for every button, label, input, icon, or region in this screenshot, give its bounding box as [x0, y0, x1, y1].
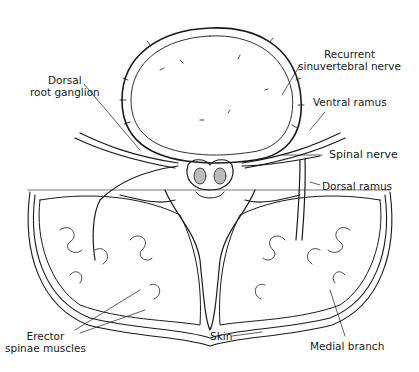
label-recurrent-line1: Recurrent: [298, 48, 401, 60]
label-recurrent-line2: sinuvertebral nerve: [298, 60, 401, 72]
spinal-cord: [187, 160, 233, 198]
label-dorsal-root-ganglion: Dorsal root ganglion: [30, 74, 100, 98]
label-dorsal-root-line2: root ganglion: [30, 86, 100, 98]
vertebral-body: [120, 28, 304, 163]
label-recurrent-sinuvertebral-nerve: Recurrent sinuvertebral nerve: [298, 48, 401, 72]
label-medial-branch: Medial branch: [310, 340, 384, 352]
nerve-paths: [75, 133, 345, 260]
label-ventral-ramus: Ventral ramus: [313, 96, 387, 108]
label-dorsal-ramus: Dorsal ramus: [322, 180, 392, 192]
skin-layers: [28, 190, 392, 346]
label-erector-spinae-muscles: Erector spinae muscles: [5, 330, 86, 354]
label-spinal-nerve: Spinal nerve: [329, 149, 398, 161]
label-dorsal-root-line1: Dorsal: [30, 74, 100, 86]
erector-spinae-muscles: [39, 196, 381, 325]
label-erector-line1: Erector: [5, 330, 86, 342]
label-erector-line2: spinae muscles: [5, 342, 86, 354]
label-skin: Skin: [210, 330, 232, 342]
